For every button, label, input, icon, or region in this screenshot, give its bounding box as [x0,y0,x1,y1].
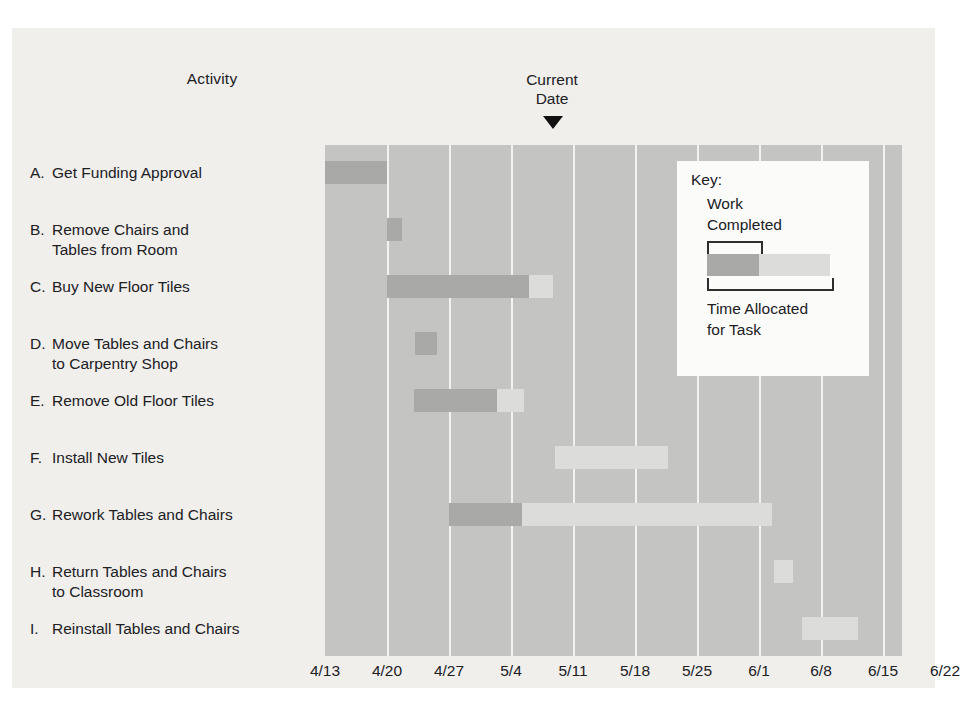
activity-letter: G. [30,505,52,525]
bar-time-allocated [774,560,793,583]
key-time-line2: for Task [707,321,761,338]
gridline [635,145,637,656]
current-date-label: Current Date [472,70,632,108]
x-tick-label: 5/11 [542,662,604,680]
activity-letter: F. [30,448,52,468]
legend-time-allocated-swatch [759,254,830,276]
bar-work-completed [387,275,529,298]
bar-time-allocated [802,617,858,640]
bar-work-completed [449,503,522,526]
triangle-down-icon [543,116,563,129]
x-tick-label: 4/27 [418,662,480,680]
x-tick-label: 5/4 [480,662,542,680]
gridline [573,145,575,656]
activity-name: Return Tables and Chairsto Classroom [52,562,308,601]
x-tick-label: 6/15 [852,662,914,680]
x-tick-label: 5/25 [666,662,728,680]
activity-name: Rework Tables and Chairs [52,505,308,525]
legend-key-box: Key: Work Completed Time Allocated for T… [677,161,869,376]
activity-label-row: G.Rework Tables and Chairs [30,505,308,525]
activity-letter: C. [30,277,52,297]
activity-column-title: Activity [112,70,312,88]
bar-time-allocated [529,275,553,298]
activity-label-row: F.Install New Tiles [30,448,308,468]
bar-work-completed [387,218,402,241]
activity-name: Remove Chairs andTables from Room [52,220,308,259]
activity-letter: H. [30,562,52,601]
key-work-completed-label: Work Completed [707,193,782,235]
activity-label-row: C.Buy New Floor Tiles [30,277,308,297]
activity-name: Buy New Floor Tiles [52,277,308,297]
gantt-bar [325,161,387,184]
work-completed-bracket-icon [707,241,763,254]
activity-label-row: A.Get Funding Approval [30,163,308,183]
legend-sample-bar [707,254,830,276]
current-date-line1: Current [526,71,578,88]
gantt-bar [774,560,793,583]
gantt-bar [414,389,524,412]
activity-name: Remove Old Floor Tiles [52,391,308,411]
bar-work-completed [325,161,387,184]
key-title: Key: [691,171,722,189]
activity-label-row: E.Remove Old Floor Tiles [30,391,308,411]
x-tick-label: 5/18 [604,662,666,680]
activity-label-row: D.Move Tables and Chairsto Carpentry Sho… [30,334,308,373]
activity-label-row: B.Remove Chairs andTables from Room [30,220,308,259]
activity-letter: B. [30,220,52,259]
x-tick-label: 6/1 [728,662,790,680]
activity-label-row: I.Reinstall Tables and Chairs [30,619,308,639]
activity-letter: A. [30,163,52,183]
x-tick-label: 4/20 [356,662,418,680]
gantt-bar [387,218,402,241]
gantt-bar [555,446,668,469]
gantt-bar [802,617,858,640]
activity-name: Move Tables and Chairsto Carpentry Shop [52,334,308,373]
activity-name: Reinstall Tables and Chairs [52,619,308,639]
bar-work-completed [414,389,497,412]
gantt-plot-area: Key: Work Completed Time Allocated for T… [325,145,902,656]
legend-work-completed-swatch [707,254,759,276]
gantt-bar [449,503,772,526]
activity-letter: D. [30,334,52,373]
activity-label-row: H.Return Tables and Chairsto Classroom [30,562,308,601]
x-tick-label: 4/13 [294,662,356,680]
activity-name: Get Funding Approval [52,163,308,183]
gantt-chart-figure: Activity Current Date A.Get Funding Appr… [12,28,935,688]
gantt-bar [415,332,437,355]
activity-name: Install New Tiles [52,448,308,468]
gantt-bar [387,275,553,298]
bar-time-allocated [497,389,524,412]
activity-letter: I. [30,619,52,639]
x-tick-label: 6/8 [790,662,852,680]
activity-letter: E. [30,391,52,411]
x-axis-tick-labels: 4/134/204/275/45/115/185/256/16/86/156/2… [325,662,902,686]
activity-label-column: A.Get Funding ApprovalB.Remove Chairs an… [30,145,310,656]
x-tick-label: 6/22 [914,662,964,680]
bar-work-completed [415,332,437,355]
bar-time-allocated [522,503,772,526]
key-work-line1: Work [707,195,743,212]
current-date-line2: Date [536,90,569,107]
key-time-line1: Time Allocated [707,300,808,317]
bar-time-allocated [555,446,668,469]
time-allocated-bracket-icon [707,278,834,291]
key-work-line2: Completed [707,216,782,233]
gridline [883,145,885,656]
key-time-allocated-label: Time Allocated for Task [707,298,808,340]
